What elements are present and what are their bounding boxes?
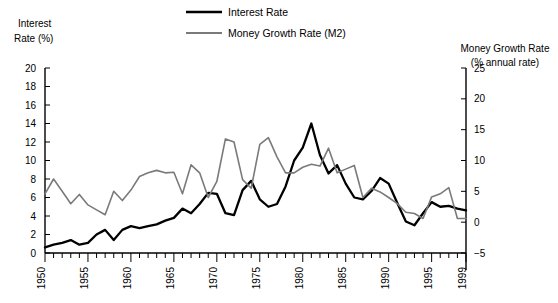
right-axis-title-line1: Money Growth Rate	[461, 43, 550, 54]
x-axis-tick-label: 1975	[251, 267, 262, 290]
right-axis-tick-label: −5	[474, 248, 486, 259]
line-chart: Interest Rate Money Growth Rate (M2) Int…	[0, 0, 558, 303]
right-axis-tick-label: 10	[474, 155, 486, 166]
x-axis-tick-label: 1995	[423, 267, 434, 290]
right-axis-tick-label: 5	[474, 186, 480, 197]
legend: Interest Rate Money Growth Rate (M2)	[186, 6, 346, 39]
right-axis-tick-label: 25	[474, 63, 486, 74]
left-axis-tick-label: 6	[30, 192, 36, 203]
left-axis: 02468101214161820	[25, 63, 50, 259]
left-axis-tick-label: 16	[25, 100, 37, 111]
left-axis-title-line1: Interest	[18, 18, 52, 29]
x-axis-tick-label: 1955	[79, 267, 90, 290]
series-layer	[45, 124, 466, 248]
left-axis-tick-label: 12	[25, 137, 37, 148]
right-axis-tick-label: 0	[474, 217, 480, 228]
x-axis-tick-label: 1985	[337, 267, 348, 290]
x-axis-tick-label: 1980	[294, 267, 305, 290]
x-axis-tick-label: 1950	[36, 267, 47, 290]
x-axis-tick-label: 1970	[208, 267, 219, 290]
legend-label-money-growth: Money Growth Rate (M2)	[228, 27, 346, 39]
left-axis-title-line2: Rate (%)	[14, 33, 53, 44]
series-line-money-growth	[45, 138, 466, 219]
right-axis: −50510152025	[461, 63, 486, 271]
legend-label-interest-rate: Interest Rate	[228, 6, 288, 18]
chart-container: Interest Rate Money Growth Rate (M2) Int…	[0, 0, 558, 303]
left-axis-tick-label: 2	[30, 229, 36, 240]
left-axis-tick-label: 14	[25, 118, 37, 129]
x-axis-tick-label: 1960	[122, 267, 133, 290]
left-axis-tick-label: 20	[25, 63, 37, 74]
left-axis-tick-label: 8	[30, 174, 36, 185]
series-line-interest-rate	[45, 124, 466, 248]
left-axis-tick-label: 18	[25, 81, 37, 92]
x-axis-tick-label: 1990	[380, 267, 391, 290]
left-axis-tick-label: 0	[30, 248, 36, 259]
left-axis-tick-label: 10	[25, 155, 37, 166]
left-axis-title: Interest Rate (%)	[14, 18, 53, 44]
x-axis-tick-label: 1999	[457, 267, 468, 290]
x-axis: 1950195519601965197019751980198519901995…	[36, 253, 468, 289]
right-axis-tick-label: 15	[474, 124, 486, 135]
left-axis-tick-label: 4	[30, 211, 36, 222]
right-axis-tick-label: 20	[474, 93, 486, 104]
x-axis-tick-label: 1965	[165, 267, 176, 290]
